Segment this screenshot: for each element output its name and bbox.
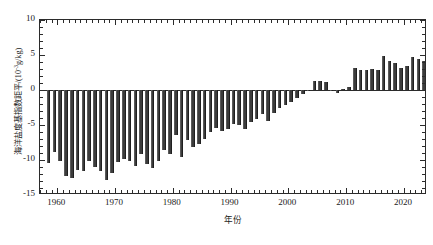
y-axis-title-main: 海洋盐度基指数距平/(10 xyxy=(14,70,23,155)
bar xyxy=(128,90,132,161)
y-tick-minor-right xyxy=(422,111,425,112)
bar xyxy=(53,90,57,152)
x-tick-minor xyxy=(271,190,272,193)
y-tick-minor xyxy=(40,132,43,133)
y-tick-minor-right xyxy=(422,132,425,133)
x-tick-minor xyxy=(46,190,47,193)
bar xyxy=(376,70,380,90)
y-tick-label: -5 xyxy=(5,119,35,128)
x-tick-major-top xyxy=(404,20,405,25)
x-tick-major-top xyxy=(115,20,116,25)
bar xyxy=(393,63,397,90)
x-tick-minor-top xyxy=(161,20,162,23)
bar xyxy=(307,90,311,91)
bar xyxy=(168,90,172,154)
y-tick-minor-right xyxy=(422,174,425,175)
y-tick-minor xyxy=(40,62,43,63)
bar xyxy=(145,90,149,164)
bar xyxy=(93,90,97,167)
y-tick-minor xyxy=(40,181,43,182)
x-tick-minor-top xyxy=(190,20,191,23)
x-tick-major-top xyxy=(231,20,232,25)
x-tick-minor-top xyxy=(300,20,301,23)
x-tick-label: 1970 xyxy=(94,198,134,207)
y-tick-major-right xyxy=(420,55,425,56)
x-tick-minor xyxy=(213,190,214,193)
y-tick-major xyxy=(40,160,45,161)
x-tick-minor xyxy=(80,190,81,193)
bar xyxy=(243,90,247,129)
y-tick-minor-right xyxy=(422,48,425,49)
y-tick-label: -15 xyxy=(5,189,35,198)
x-tick-minor xyxy=(283,190,284,193)
y-tick-minor xyxy=(40,41,43,42)
bar xyxy=(209,90,213,132)
y-tick-minor-right xyxy=(422,167,425,168)
x-tick-label: 1990 xyxy=(210,198,250,207)
y-tick-major-right xyxy=(420,90,425,91)
y-tick-minor xyxy=(40,111,43,112)
y-tick-minor-right xyxy=(422,27,425,28)
x-tick-major xyxy=(288,188,289,193)
x-tick-minor-top xyxy=(127,20,128,23)
y-tick-minor xyxy=(40,167,43,168)
x-tick-minor-top xyxy=(369,20,370,23)
x-tick-minor xyxy=(335,190,336,193)
x-tick-minor xyxy=(311,190,312,193)
y-tick-minor xyxy=(40,118,43,119)
bar xyxy=(255,90,259,119)
x-tick-minor-top xyxy=(335,20,336,23)
bar xyxy=(151,90,155,168)
x-tick-minor-top xyxy=(242,20,243,23)
x-tick-minor-top xyxy=(208,20,209,23)
bar xyxy=(122,90,126,159)
bar xyxy=(278,90,282,108)
y-tick-major-right xyxy=(420,125,425,126)
x-tick-minor xyxy=(190,190,191,193)
x-tick-minor xyxy=(381,190,382,193)
y-tick-minor-right xyxy=(422,146,425,147)
x-tick-minor-top xyxy=(69,20,70,23)
x-tick-minor xyxy=(167,190,168,193)
y-tick-label: 0 xyxy=(5,84,35,93)
x-tick-minor-top xyxy=(410,20,411,23)
x-tick-minor xyxy=(150,190,151,193)
x-tick-minor xyxy=(248,190,249,193)
x-tick-major xyxy=(346,188,347,193)
x-tick-minor xyxy=(242,190,243,193)
bar xyxy=(110,90,114,173)
bar xyxy=(382,56,386,90)
x-tick-minor-top xyxy=(277,20,278,23)
x-tick-minor-top xyxy=(196,20,197,23)
x-tick-minor-top xyxy=(340,20,341,23)
y-tick-minor-right xyxy=(422,62,425,63)
x-tick-minor-top xyxy=(236,20,237,23)
x-tick-minor xyxy=(98,190,99,193)
x-tick-minor-top xyxy=(46,20,47,23)
bar xyxy=(162,90,166,150)
x-tick-minor-top xyxy=(363,20,364,23)
x-tick-minor xyxy=(52,190,53,193)
x-tick-minor-top xyxy=(138,20,139,23)
bar xyxy=(399,68,403,90)
x-tick-minor-top xyxy=(86,20,87,23)
bar xyxy=(64,90,68,176)
bar xyxy=(220,90,224,131)
x-tick-minor xyxy=(75,190,76,193)
bar xyxy=(313,81,317,90)
x-tick-minor xyxy=(156,190,157,193)
bar xyxy=(203,90,207,139)
bar xyxy=(99,90,103,171)
x-tick-label: 2000 xyxy=(267,198,307,207)
x-tick-minor-top xyxy=(121,20,122,23)
y-tick-minor xyxy=(40,139,43,140)
x-tick-minor-top xyxy=(421,20,422,23)
x-tick-minor xyxy=(265,190,266,193)
y-tick-minor xyxy=(40,83,43,84)
x-tick-minor-top xyxy=(271,20,272,23)
x-tick-minor-top xyxy=(311,20,312,23)
x-tick-minor-top xyxy=(323,20,324,23)
x-tick-minor xyxy=(415,190,416,193)
x-tick-minor xyxy=(63,190,64,193)
bar xyxy=(180,90,184,157)
